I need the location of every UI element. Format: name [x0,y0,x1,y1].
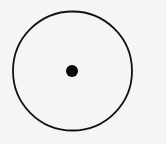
center-point [66,65,78,77]
background [0,0,166,144]
diagram-canvas [0,0,166,144]
circle-diagram [0,0,166,144]
